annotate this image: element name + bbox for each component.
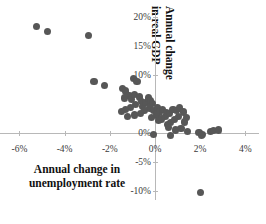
data-point — [133, 78, 140, 85]
data-point — [44, 28, 51, 35]
data-point — [124, 113, 131, 120]
y-tick-label: -10% — [109, 186, 151, 196]
x-tick-mark — [19, 131, 20, 136]
x-tick-label: -4% — [45, 144, 85, 154]
data-point — [155, 117, 162, 124]
x-tick-mark — [245, 131, 246, 136]
y-tick-label: -5% — [109, 157, 151, 167]
y-tick-mark — [153, 46, 158, 47]
y-tick-label: 15% — [109, 41, 151, 51]
y-tick-mark — [153, 75, 158, 76]
data-point — [101, 82, 108, 89]
data-point — [85, 32, 92, 39]
y-axis-title: Annual change in real GDP — [149, 6, 176, 98]
data-point — [167, 132, 174, 139]
data-point — [90, 78, 97, 85]
x-tick-label: 2% — [180, 144, 220, 154]
y-tick-label: 20% — [109, 12, 151, 22]
x-tick-label: 4% — [225, 144, 265, 154]
data-point — [150, 131, 157, 138]
y-tick-mark — [153, 17, 158, 18]
data-point — [184, 128, 191, 135]
data-point — [131, 111, 138, 118]
y-tick-label: 0% — [109, 128, 151, 138]
data-point — [197, 189, 204, 196]
scatter-chart: Annual change in unemployment rate Annua… — [0, 0, 266, 224]
x-tick-label: -2% — [90, 144, 130, 154]
data-point — [198, 132, 205, 139]
y-axis-title-line1: Annual change — [163, 6, 177, 98]
x-tick-label: 0% — [135, 144, 175, 154]
data-point — [121, 94, 128, 101]
data-point — [33, 23, 40, 30]
y-tick-mark — [153, 162, 158, 163]
x-tick-label: -6% — [0, 144, 39, 154]
y-tick-mark — [153, 191, 158, 192]
x-tick-mark — [65, 131, 66, 136]
data-point — [215, 126, 222, 133]
